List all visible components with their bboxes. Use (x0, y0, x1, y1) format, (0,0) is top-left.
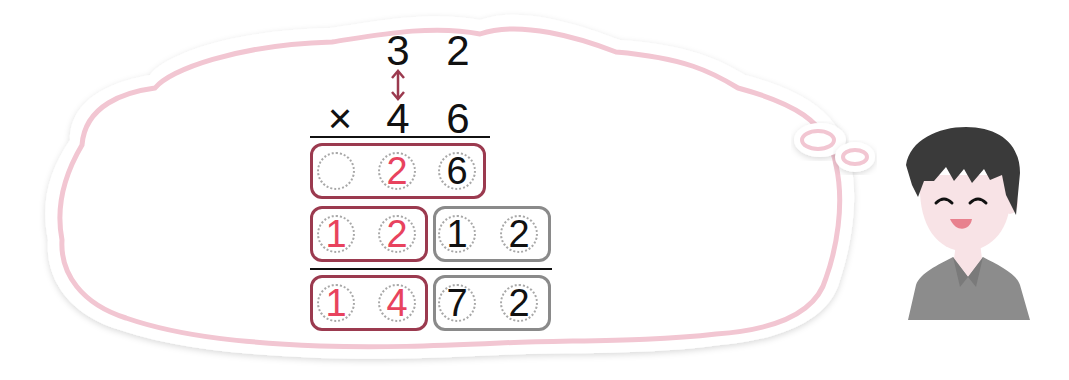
result-digit-2: 7 (438, 284, 476, 322)
multiplier-tens-digit: 4 (378, 98, 418, 140)
pp2-digit-2: 1 (438, 215, 476, 253)
pp2-digit-3: 2 (500, 215, 538, 253)
multiply-operator: × (320, 98, 360, 140)
multiplicand-ones-digit: 2 (438, 30, 478, 72)
result-digit-3: 2 (500, 284, 538, 322)
multiplicand-tens-digit: 3 (378, 30, 418, 72)
multiplier-ones-digit: 6 (438, 98, 478, 140)
top-rule (310, 136, 490, 138)
pp1-digit-0 (317, 152, 355, 190)
pp2-digit-1: 2 (378, 215, 416, 253)
math-thought-scene: 3 2 × 4 6 2 6 1 2 1 2 1 4 7 2 (0, 0, 1069, 380)
smiling-boy-illustration (898, 125, 1038, 325)
result-digit-0: 1 (317, 284, 355, 322)
result-rule (310, 268, 552, 270)
pp1-digit-1: 2 (378, 152, 416, 190)
pp1-digit-2: 6 (438, 152, 476, 190)
result-digit-1: 4 (378, 284, 416, 322)
pp2-digit-0: 1 (317, 215, 355, 253)
